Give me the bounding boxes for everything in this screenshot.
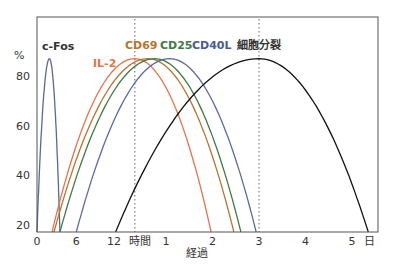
series-label: CD40L xyxy=(192,39,232,52)
x-tick-label: 12 xyxy=(107,235,121,248)
series-line-c-Fos xyxy=(37,59,60,232)
x-tick-label: 0 xyxy=(34,235,41,248)
series-label: CD69 xyxy=(125,39,158,52)
series-labels: c-FosIL-2CD69CD25CD40L細胞分裂 xyxy=(42,38,281,70)
x-day-unit-label: 日 xyxy=(364,235,375,248)
x-tick-label: 5 xyxy=(349,235,356,248)
chart: 80604020 0612時間12345日 c-FosIL-2CD69CD25C… xyxy=(0,0,395,266)
x-tick-label: 3 xyxy=(256,235,263,248)
series-label: 細胞分裂 xyxy=(237,38,281,52)
series-label: c-Fos xyxy=(42,40,75,53)
x-tick-label: 4 xyxy=(302,235,309,248)
y-tick-label: 20 xyxy=(16,219,30,232)
series-label: IL-2 xyxy=(93,57,116,70)
x-hour-unit-label: 時間 xyxy=(129,235,151,248)
series-layer xyxy=(37,59,368,232)
series-line-IL-2 xyxy=(52,59,211,232)
series-line-CD69 xyxy=(54,59,234,232)
x-axis-label: 経過 xyxy=(186,247,208,260)
y-axis: 80604020 xyxy=(16,70,30,232)
x-tick-label: 1 xyxy=(163,235,170,248)
x-tick-label: 6 xyxy=(73,235,80,248)
series-label: CD25 xyxy=(160,39,193,52)
y-tick-label: 80 xyxy=(16,70,30,83)
series-line-CD25 xyxy=(60,59,241,232)
y-axis-label: % xyxy=(14,49,24,62)
y-tick-label: 40 xyxy=(16,169,30,182)
x-tick-label: 2 xyxy=(209,235,216,248)
y-tick-label: 60 xyxy=(16,120,30,133)
series-line-細胞分裂 xyxy=(116,59,369,232)
